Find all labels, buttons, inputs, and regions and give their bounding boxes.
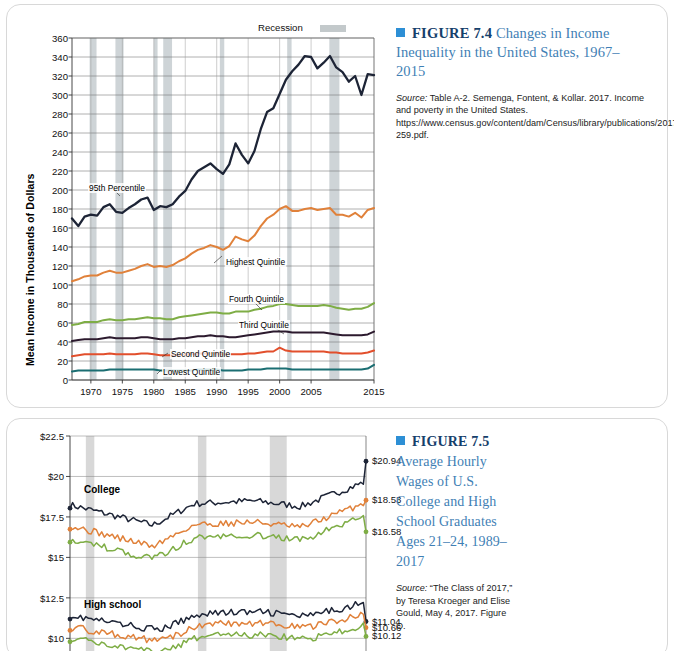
figure-74-number: FIGURE 7.4 xyxy=(412,25,492,41)
figure-75-number: FIGURE 7.5 xyxy=(412,434,489,449)
y-axis-tick: 320 xyxy=(40,71,68,82)
series-label-3: Fourth Quintile xyxy=(228,294,285,304)
figure-75-caption: FIGURE 7.5 Average Hourly Wages of U.S. … xyxy=(396,432,516,632)
figure-74-heading: FIGURE 7.4 Changes in Income Inequality … xyxy=(396,24,646,81)
y-axis-tick: 140 xyxy=(40,242,68,253)
source-label: Source: xyxy=(396,93,427,103)
y-axis-tick: $17.5 xyxy=(14,511,64,522)
figure-74-caption: FIGURE 7.4 Changes in Income Inequality … xyxy=(396,24,646,142)
y-axis-tick: 280 xyxy=(40,109,68,120)
figure-page: Mean Income in Thousands of Dollars Rece… xyxy=(0,0,674,651)
y-axis-title: Mean Income in Thousands of Dollars xyxy=(24,173,36,366)
y-axis-tick: 40 xyxy=(40,337,68,348)
y-axis-tick: 300 xyxy=(40,90,68,101)
y-axis-tick: 340 xyxy=(40,52,68,63)
x-axis-tick: 1975 xyxy=(112,386,133,397)
income-inequality-chart: Mean Income in Thousands of Dollars Rece… xyxy=(0,0,390,408)
figure-75-title: Average Hourly Wages of U.S. College and… xyxy=(396,454,507,569)
y-axis-tick: $22.5 xyxy=(14,431,64,442)
y-axis-tick: 20 xyxy=(40,356,68,367)
y-axis-tick: $12.5 xyxy=(14,592,64,603)
figure-75-heading: FIGURE 7.5 Average Hourly Wages of U.S. … xyxy=(396,432,516,572)
source-label: Source: xyxy=(396,583,427,593)
x-axis-tick: 2015 xyxy=(363,386,384,397)
y-axis-tick: 220 xyxy=(40,166,68,177)
y-axis-tick: 200 xyxy=(40,185,68,196)
y-axis-tick: 0 xyxy=(40,375,68,386)
figure-75-source: Source: “The Class of 2017,” by Teresa K… xyxy=(396,582,516,632)
y-axis-tick: 100 xyxy=(40,280,68,291)
x-axis-tick: 1985 xyxy=(175,386,196,397)
y-axis-tick: 360 xyxy=(40,33,68,44)
x-axis-tick: 2005 xyxy=(300,386,321,397)
group-label-2: High school xyxy=(84,599,141,610)
series-label-6: Lowest Quintile xyxy=(162,367,221,377)
source-text: Table A-2. Semenga, Fontent, & Kollar. 2… xyxy=(396,93,674,140)
series-label-1: 95th Percentile xyxy=(88,183,146,193)
x-axis-tick: 2000 xyxy=(269,386,290,397)
x-axis-tick: 1970 xyxy=(80,386,101,397)
y-axis-tick: 240 xyxy=(40,147,68,158)
y-axis-tick: 180 xyxy=(40,204,68,215)
blue-square-bullet-icon xyxy=(396,28,405,37)
recession-legend-label: Recession xyxy=(258,22,303,33)
x-axis-tick: 1980 xyxy=(143,386,164,397)
y-axis-tick: $20 xyxy=(14,471,64,482)
y-axis-tick: $10 xyxy=(14,633,64,644)
series-label-5: Second Quintile xyxy=(170,349,231,359)
figure-74-source: Source: Table A-2. Semenga, Fontent, & K… xyxy=(396,92,646,142)
recession-legend-swatch xyxy=(320,25,346,32)
y-axis-tick: 60 xyxy=(40,318,68,329)
y-axis-tick: 160 xyxy=(40,223,68,234)
series-label-2: Highest Quintile xyxy=(225,257,286,267)
y-axis-tick: 120 xyxy=(40,261,68,272)
blue-square-bullet-icon xyxy=(396,436,405,445)
x-axis-tick: 1995 xyxy=(237,386,258,397)
y-axis-tick: 260 xyxy=(40,128,68,139)
x-axis-tick: 1990 xyxy=(206,386,227,397)
series-label-4: Third Quintile xyxy=(238,320,290,330)
hourly-wages-chart: $22.5$20$17.5$15$12.5$10$20.94$18.53$16.… xyxy=(0,418,390,651)
y-axis-tick: $15 xyxy=(14,552,64,563)
group-label-1: College xyxy=(84,484,120,495)
y-axis-tick: 80 xyxy=(40,299,68,310)
